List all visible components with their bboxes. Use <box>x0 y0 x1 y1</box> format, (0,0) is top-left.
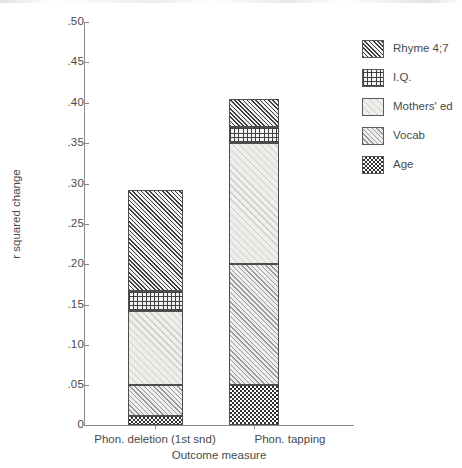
x-tick-1 <box>155 425 156 429</box>
legend-swatch-vocab-icon <box>362 127 384 145</box>
x-axis-label-phon-tapping: Phon. tapping <box>228 433 352 445</box>
legend-label-rhyme: Rhyme 4;7 <box>393 42 449 54</box>
legend-label-age: Age <box>393 158 413 170</box>
y-axis-title: r squared change <box>10 154 22 274</box>
y-tick-label-045: .45 <box>50 55 84 67</box>
y-tick-label-030: .30 <box>50 177 84 189</box>
chart-figure: r squared change .50 .45 .40 .35 .30 .25… <box>0 0 462 468</box>
bar-segment-iq <box>128 291 183 311</box>
y-tick-040 <box>84 103 89 104</box>
y-tick-label-0: 0 <box>50 418 84 430</box>
bar-segment-rhyme <box>128 190 183 291</box>
x-axis-line <box>84 425 354 426</box>
legend-item-mothers-ed: Mothers' ed <box>362 98 462 127</box>
y-tick-035 <box>84 143 89 144</box>
legend-item-age: Age <box>362 156 462 185</box>
chart-legend: Rhyme 4;7 I.Q. Mothers' ed Vocab Age <box>362 40 462 185</box>
y-tick-015 <box>84 305 89 306</box>
legend-label-mothers-ed: Mothers' ed <box>393 100 453 112</box>
legend-label-vocab: Vocab <box>393 129 425 141</box>
y-tick-045 <box>84 62 89 63</box>
y-tick-label-025: .25 <box>50 217 84 229</box>
y-tick-005 <box>84 385 89 386</box>
x-axis-label-phon-deletion: Phon. deletion (1st snd) <box>82 433 228 445</box>
y-tick-label-010: .10 <box>50 338 84 350</box>
legend-label-iq: I.Q. <box>393 71 412 83</box>
legend-swatch-iq-icon <box>362 69 384 87</box>
y-tick-050 <box>84 22 89 23</box>
y-tick-020 <box>84 264 89 265</box>
bar-segment-rhyme <box>229 99 279 127</box>
bar-segment-mothers-ed <box>229 143 279 264</box>
y-tick-010 <box>84 345 89 346</box>
y-tick-label-020: .20 <box>50 257 84 269</box>
bar-segment-iq <box>229 127 279 143</box>
y-tick-label-015: .15 <box>50 298 84 310</box>
y-tick-label-050: .50 <box>50 15 84 27</box>
x-tick-2 <box>254 425 255 429</box>
x-axis-title: Outcome measure <box>84 449 354 461</box>
legend-item-vocab: Vocab <box>362 127 462 156</box>
legend-item-iq: I.Q. <box>362 69 462 98</box>
bar-segment-age <box>128 416 183 425</box>
legend-swatch-age-icon <box>362 156 384 174</box>
bar-phon-deletion <box>128 190 183 425</box>
bar-segment-mothers-ed <box>128 311 183 385</box>
legend-swatch-rhyme-icon <box>362 40 384 58</box>
bar-phon-tapping <box>229 99 279 425</box>
y-tick-030 <box>84 184 89 185</box>
y-tick-label-040: .40 <box>50 96 84 108</box>
legend-item-rhyme: Rhyme 4;7 <box>362 40 462 69</box>
bar-segment-vocab <box>229 264 279 385</box>
bar-segment-age <box>229 385 279 425</box>
y-tick-label-035: .35 <box>50 136 84 148</box>
y-tick-label-005: .05 <box>50 378 84 390</box>
y-tick-025 <box>84 224 89 225</box>
legend-swatch-mothers-ed-icon <box>362 98 384 116</box>
bar-segment-vocab <box>128 385 183 416</box>
